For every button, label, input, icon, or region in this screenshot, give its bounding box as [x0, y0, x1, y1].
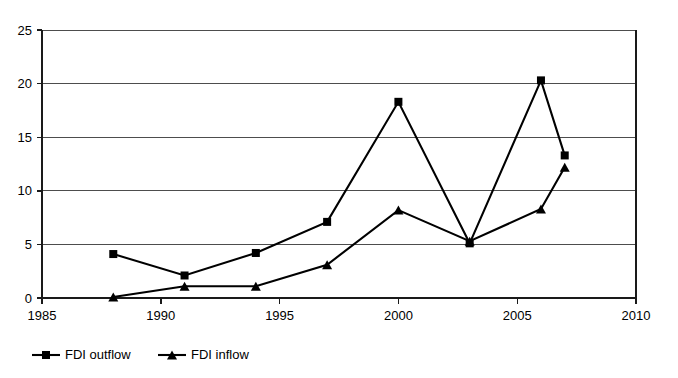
- x-tick-label-2005: 2005: [503, 308, 532, 323]
- y-tick-label-20: 20: [18, 76, 32, 91]
- x-tick-label-2000: 2000: [384, 308, 413, 323]
- chart-background: [0, 0, 678, 378]
- data-point-fdi-outflow-2000: [394, 98, 402, 106]
- y-tick-label-15: 15: [18, 130, 32, 145]
- chart-canvas: 0510152025 198519901995200020052010 FDI …: [0, 0, 678, 378]
- x-tick-label-1985: 1985: [28, 308, 57, 323]
- y-tick-label-5: 5: [25, 237, 32, 252]
- data-point-fdi-outflow-1991: [181, 271, 189, 279]
- data-point-fdi-outflow-2007: [561, 151, 569, 159]
- y-tick-label-25: 25: [18, 23, 32, 38]
- data-point-fdi-outflow-2006: [537, 76, 545, 84]
- x-tick-label-2010: 2010: [622, 308, 651, 323]
- legend-label-1: FDI inflow: [191, 347, 249, 362]
- data-point-fdi-outflow-1988: [109, 250, 117, 258]
- x-tick-label-1995: 1995: [265, 308, 294, 323]
- data-point-fdi-outflow-1997: [323, 218, 331, 226]
- data-point-fdi-outflow-1994: [252, 249, 260, 257]
- legend-label-0: FDI outflow: [65, 347, 131, 362]
- y-tick-label-10: 10: [18, 183, 32, 198]
- y-tick-label-0: 0: [25, 291, 32, 306]
- fdi-line-chart: 0510152025 198519901995200020052010 FDI …: [0, 0, 678, 378]
- x-tick-label-1990: 1990: [146, 308, 175, 323]
- legend-marker-square-icon: [42, 351, 50, 359]
